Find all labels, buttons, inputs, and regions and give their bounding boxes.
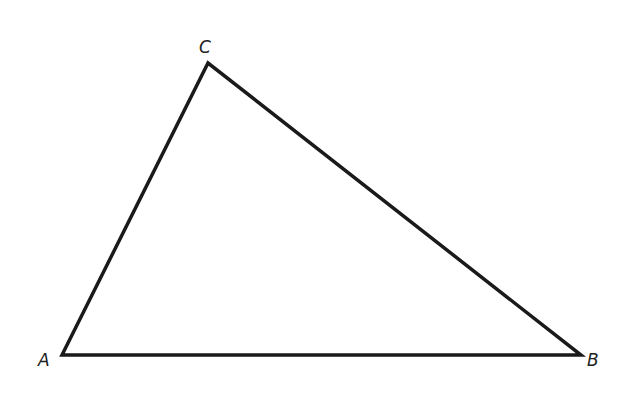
triangle-diagram: A B C	[0, 0, 634, 397]
vertex-label-c: C	[199, 37, 211, 57]
triangle-abc	[62, 63, 581, 355]
vertex-label-a: A	[37, 350, 50, 370]
vertex-label-b: B	[587, 350, 599, 370]
